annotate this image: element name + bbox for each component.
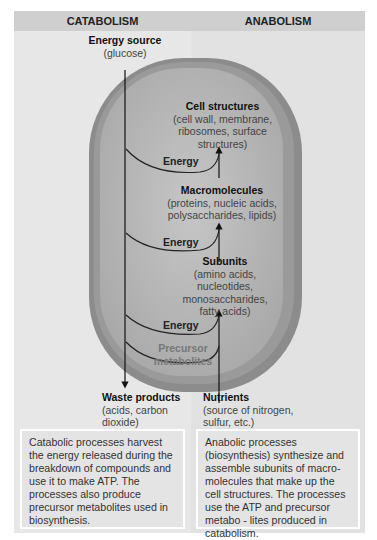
nutrients-title: Nutrients bbox=[203, 391, 323, 404]
detail-line: nucleotides, bbox=[170, 280, 280, 293]
waste-products-label: Waste products (acids, carbon dioxide) bbox=[102, 391, 192, 429]
detail-line: structures) bbox=[150, 138, 295, 151]
precursor-metabolites-label: Precursor metabolites bbox=[148, 342, 218, 367]
detail-line: (proteins, nucleic acids, bbox=[148, 197, 296, 210]
energy-source-title: Energy source bbox=[80, 34, 170, 47]
energy-label-2: Energy bbox=[163, 236, 199, 248]
energy-source-label: Energy source (glucose) bbox=[80, 34, 170, 59]
precursor-line-1: Precursor bbox=[148, 342, 218, 355]
catabolism-description: Catabolic processes harvest the energy r… bbox=[20, 429, 185, 529]
detail-line: (acids, carbon bbox=[102, 404, 192, 417]
energy-label-1: Energy bbox=[163, 155, 199, 167]
detail-line: (amino acids, bbox=[170, 268, 280, 281]
detail-line: sulfur, etc.) bbox=[203, 416, 323, 429]
detail-line: (source of nitrogen, bbox=[203, 404, 323, 417]
energy-label-3: Energy bbox=[163, 319, 199, 331]
detail-line: dioxide) bbox=[102, 416, 192, 429]
precursor-line-2: metabolites bbox=[148, 355, 218, 368]
detail-line: ribosomes, surface bbox=[150, 125, 295, 138]
detail-line: (cell wall, membrane, bbox=[150, 113, 295, 126]
detail-line: polysaccharides, lipids) bbox=[148, 209, 296, 222]
cell-structures-label: Cell structures (cell wall, membrane, ri… bbox=[150, 100, 295, 150]
macromolecules-label: Macromolecules (proteins, nucleic acids,… bbox=[148, 184, 296, 222]
subunits-label: Subunits (amino acids, nucleotides, mono… bbox=[170, 255, 280, 318]
nutrients-label: Nutrients (source of nitrogen, sulfur, e… bbox=[203, 391, 323, 429]
detail-line: monosaccharides, bbox=[170, 293, 280, 306]
subunits-title: Subunits bbox=[170, 255, 280, 268]
cell-structures-title: Cell structures bbox=[150, 100, 295, 113]
anabolism-description: Anabolic processes (biosynthesis) synthe… bbox=[196, 429, 360, 529]
macromolecules-title: Macromolecules bbox=[148, 184, 296, 197]
detail-line: fatty acids) bbox=[170, 305, 280, 318]
energy-source-detail: (glucose) bbox=[80, 47, 170, 60]
waste-products-title: Waste products bbox=[102, 391, 192, 404]
